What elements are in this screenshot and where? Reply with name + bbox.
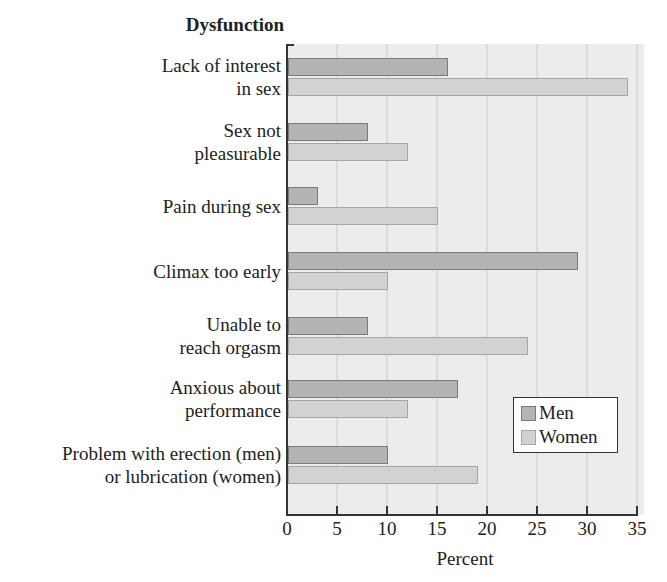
category-label-line: Lack of interest — [162, 54, 281, 77]
category-label: Unable toreach orgasm — [180, 313, 281, 359]
y-axis-line — [286, 44, 288, 516]
x-tick-label: 15 — [417, 518, 457, 540]
bar-women — [288, 400, 408, 418]
category-label-line: or lubrication (women) — [62, 465, 281, 488]
bar-men — [288, 58, 448, 76]
bar-men — [288, 317, 368, 335]
bar-women — [288, 272, 388, 290]
bar-men — [288, 446, 388, 464]
category-label: Anxious aboutperformance — [170, 376, 281, 422]
category-label: Pain during sex — [163, 195, 281, 218]
category-label-line: Pain during sex — [163, 195, 281, 218]
legend-label-women: Women — [539, 426, 598, 448]
y-axis-top-tick — [286, 44, 294, 46]
legend-label-men: Men — [539, 402, 574, 424]
gridline — [436, 44, 438, 515]
x-tick — [486, 506, 488, 515]
gridline — [486, 44, 488, 515]
bar-women — [288, 78, 628, 96]
bar-men — [288, 252, 578, 270]
x-tick — [436, 506, 438, 515]
x-tick — [536, 506, 538, 515]
category-label: Problem with erection (men)or lubricatio… — [62, 442, 281, 488]
x-tick — [636, 506, 638, 515]
x-tick-label: 25 — [517, 518, 557, 540]
legend-swatch-women — [521, 430, 536, 445]
legend-item-women: Women — [521, 426, 598, 448]
category-label-line: Problem with erection (men) — [62, 442, 281, 465]
category-label-line: pleasurable — [194, 142, 281, 165]
category-label: Climax too early — [153, 260, 281, 283]
bar-men — [288, 123, 368, 141]
bar-women — [288, 466, 478, 484]
x-tick-label: 5 — [317, 518, 357, 540]
category-label-line: Climax too early — [153, 260, 281, 283]
x-tick-label: 20 — [467, 518, 507, 540]
legend-swatch-men — [521, 406, 536, 421]
x-tick-label: 35 — [617, 518, 657, 540]
gridline — [636, 44, 638, 515]
bar-men — [288, 187, 318, 205]
bar-men — [288, 380, 458, 398]
x-axis-title: Percent — [400, 548, 530, 570]
legend: Men Women — [513, 397, 618, 453]
category-label-line: in sex — [162, 77, 281, 100]
x-tick-label: 0 — [267, 518, 307, 540]
x-tick — [386, 506, 388, 515]
category-label-line: Unable to — [180, 313, 281, 336]
category-label-line: reach orgasm — [180, 336, 281, 359]
x-tick — [336, 506, 338, 515]
x-tick-label: 30 — [567, 518, 607, 540]
category-label: Sex notpleasurable — [194, 119, 281, 165]
bar-women — [288, 337, 528, 355]
category-label-line: performance — [170, 399, 281, 422]
x-tick-label: 10 — [367, 518, 407, 540]
x-tick — [586, 506, 588, 515]
bar-women — [288, 143, 408, 161]
category-label-line: Sex not — [194, 119, 281, 142]
bar-women — [288, 207, 438, 225]
chart-title: Dysfunction — [180, 14, 284, 36]
category-label: Lack of interestin sex — [162, 54, 281, 100]
legend-item-men: Men — [521, 402, 574, 424]
category-label-line: Anxious about — [170, 376, 281, 399]
